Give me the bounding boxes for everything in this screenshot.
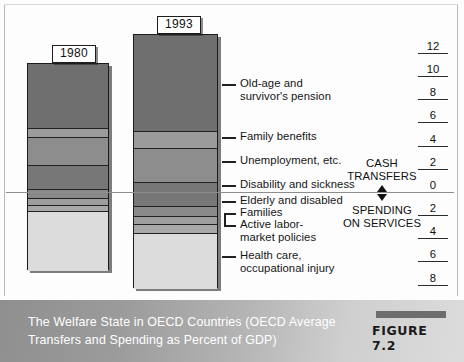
axis-tick-12 [418, 53, 448, 54]
axis-tick-label-6: 6 [418, 109, 448, 121]
figure-page: 12 10 8 6 4 2 0 2 4 6 8 CASH TRANSFERS S… [0, 0, 464, 362]
bar-year-label-1993: 1993 [157, 16, 201, 34]
segment-1980-families [28, 198, 108, 205]
axis-tick-8 [418, 99, 448, 100]
leader-line-family-benefits [222, 137, 236, 139]
segment-1980-disability-sickness [28, 165, 108, 189]
segment-1993-old-age-pension [134, 35, 217, 131]
segment-1993-family-benefits [134, 131, 217, 148]
plot-border-top [4, 4, 458, 5]
axis-tick-label-2: 2 [418, 156, 448, 168]
bar-1993[interactable] [133, 34, 218, 288]
leader-line-disability-sickness [222, 185, 236, 187]
figure-caption-text: The Welfare State in OECD Countries (OEC… [28, 314, 358, 349]
segment-1980-family-benefits [28, 128, 108, 137]
segment-1980-old-age-pension [28, 64, 108, 128]
axis-tick-neg6 [418, 261, 448, 262]
segment-1980-elderly-disabled [28, 189, 108, 198]
bar-1980[interactable] [27, 63, 109, 270]
arrow-down-icon [377, 194, 387, 201]
plot-border-left [4, 4, 5, 296]
leader-line-elderly-disabled [222, 201, 236, 203]
bracket-services-pair [224, 213, 236, 227]
leader-line-old-age-pension [222, 84, 236, 86]
axis-tick-label-8: 8 [418, 86, 448, 98]
leader-line-health-care [222, 256, 236, 258]
group-caption-cash-transfers: CASH TRANSFERS [347, 157, 417, 182]
zero-reference-line [6, 192, 454, 193]
leader-line-unemployment [222, 161, 236, 163]
axis-tick-label-4: 4 [418, 133, 448, 145]
segment-1980-unemployment [28, 137, 108, 165]
segment-1993-disability-sickness [134, 182, 217, 206]
category-label-disability-sickness: Disability and sickness [240, 178, 355, 191]
axis-tick-2 [418, 169, 448, 170]
category-label-unemployment: Unemployment, etc. [240, 154, 341, 167]
segment-1993-active-labor-market [134, 224, 217, 233]
group-caption-spending-on-services: SPENDING ON SERVICES [341, 204, 423, 229]
axis-tick-6 [418, 122, 448, 123]
figure-number-block: FIGURE 7.2 [372, 311, 454, 353]
axis-tick-10 [418, 76, 448, 77]
axis-tick-label-neg8: 8 [418, 272, 448, 284]
category-label-family-benefits: Family benefits [240, 130, 317, 143]
axis-tick-label-neg6: 6 [418, 248, 448, 260]
axis-tick-label-12: 12 [418, 40, 448, 52]
axis-tick-neg8 [418, 285, 448, 286]
axis-tick-4 [418, 146, 448, 147]
axis-tick-label-10: 10 [418, 63, 448, 75]
segment-1993-unemployment [134, 148, 217, 182]
category-label-old-age-pension: Old-age and survivor's pension [240, 77, 331, 103]
category-label-active-labor-market: Active labor- market policies [240, 218, 316, 244]
axis-tick-label-0: 0 [418, 179, 448, 191]
plot-area: 12 10 8 6 4 2 0 2 4 6 8 CASH TRANSFERS S… [0, 0, 464, 300]
axis-tick-neg4 [418, 238, 448, 239]
plot-border-right [457, 4, 458, 296]
figure-caption-bar: The Welfare State in OECD Countries (OEC… [0, 300, 464, 362]
segment-1993-health-care [134, 233, 217, 289]
segment-1980-health-care [28, 211, 108, 271]
category-label-health-care: Health care, occupational injury [240, 249, 335, 275]
bar-year-label-1980: 1980 [52, 45, 96, 63]
figure-number-label: FIGURE 7.2 [372, 323, 454, 353]
arrow-up-icon [377, 185, 387, 192]
figure-number-rule [376, 311, 446, 318]
segment-1993-elderly-disabled [134, 206, 217, 216]
segment-1993-families [134, 216, 217, 224]
